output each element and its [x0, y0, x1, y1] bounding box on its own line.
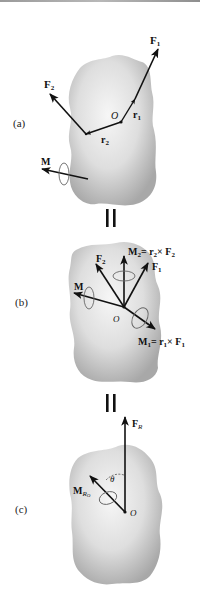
- m-label-a: M: [41, 156, 51, 167]
- equals-symbol-2: [106, 394, 116, 412]
- o-label-b: O: [113, 314, 120, 324]
- fr-label: FR: [132, 418, 143, 431]
- point-o-c: [123, 510, 126, 513]
- r2-endpoint: [85, 133, 87, 135]
- f1-label-a: F1: [150, 34, 161, 48]
- rigid-body-c: [69, 445, 162, 585]
- point-o-a: [119, 120, 122, 123]
- o-label-c: O: [130, 508, 137, 518]
- part-a: F1 F2 r1 r2 M O: [41, 34, 161, 205]
- o-label-a: O: [111, 110, 118, 121]
- point-o-b: [122, 305, 125, 308]
- mechanics-diagram: F1 F2 r1 r2 M O F2 F1 M M2= r2× F2 M1= r…: [0, 0, 200, 609]
- m-label-b: M: [74, 281, 84, 292]
- part-c: FR MRO θ O: [69, 417, 162, 584]
- f2-label-a: F2: [44, 78, 55, 92]
- theta-label: θ: [110, 474, 115, 484]
- equals-symbol-1: [106, 209, 116, 227]
- part-b: F2 F1 M M2= r2× F2 M1= r1× F1 O: [69, 242, 186, 382]
